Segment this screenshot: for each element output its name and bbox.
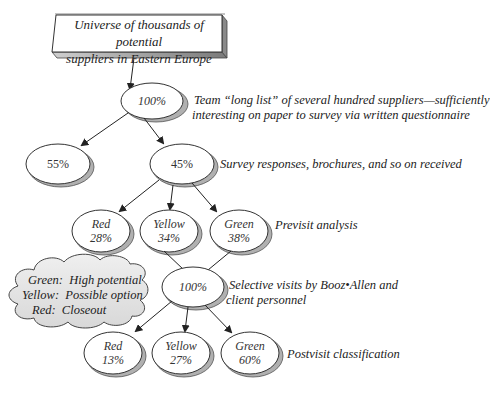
previsit-red-name: Red: [72, 217, 130, 231]
arrow-to-previsit-red: [120, 180, 159, 211]
legend-desc-red: Closeout: [62, 303, 106, 317]
postvisit-yellow-name: Yellow: [152, 339, 210, 353]
previsit-yellow-value: 34%: [140, 231, 198, 245]
postvisit-red-value: 13%: [84, 353, 142, 367]
previsit-green-value: 38%: [210, 231, 268, 245]
previsit-yellow: Yellow 34%: [140, 217, 198, 245]
postvisit-red: Red 13%: [84, 339, 142, 367]
responded-label: Survey responses, brochures, and so on r…: [220, 157, 462, 172]
previsit-red: Red 28%: [72, 217, 130, 245]
long-list-value: 100%: [121, 94, 183, 108]
visits-label-line1: Selective visits by Booz•Allen and: [229, 278, 398, 293]
postvisit-label: Postvisit classification: [287, 347, 400, 362]
responded-value: 45%: [150, 157, 214, 171]
postvisit-green-name: Green: [221, 339, 279, 353]
source-box: Universe of thousands of potential suppl…: [54, 16, 224, 67]
postvisit-yellow-value: 27%: [152, 353, 210, 367]
source-box-line2: suppliers in Eastern Europe: [54, 50, 224, 67]
long-list-label-line2: interesting on paper to survey via writt…: [192, 108, 470, 123]
line-green-to-visits: [208, 251, 231, 270]
legend-item-red: Red: Closeout: [22, 303, 143, 318]
legend-key-green: Green:: [28, 273, 63, 287]
arrow-to-postvisit-green: [205, 305, 231, 332]
postvisit-green: Green 60%: [221, 339, 279, 367]
postvisit-yellow: Yellow 27%: [152, 339, 210, 367]
arrow-to-postvisit-yellow: [185, 307, 188, 331]
long-list-label-line1: Team “long list” of several hundred supp…: [194, 93, 490, 108]
legend-key-yellow: Yellow:: [22, 288, 59, 302]
previsit-label: Previsit analysis: [275, 218, 358, 233]
dropped-value: 55%: [26, 157, 90, 171]
source-box-line1: Universe of thousands of potential: [54, 16, 224, 50]
postvisit-red-name: Red: [84, 339, 142, 353]
visits-value: 100%: [162, 280, 224, 294]
previsit-green-name: Green: [210, 217, 268, 231]
postvisit-green-value: 60%: [221, 353, 279, 367]
previsit-yellow-name: Yellow: [140, 217, 198, 231]
arrow-to-previsit-green: [192, 183, 216, 211]
legend-key-red: Red:: [32, 303, 56, 317]
legend-item-green: Green: High potential: [22, 273, 143, 288]
previsit-green: Green 38%: [210, 217, 268, 245]
legend-cloud: Green: High potential Yellow: Possible o…: [22, 273, 143, 318]
arrow-to-previsit-yellow: [170, 185, 173, 209]
visits-label-line2: client personnel: [226, 293, 306, 308]
previsit-red-value: 28%: [72, 231, 130, 245]
legend-item-yellow: Yellow: Possible option: [22, 288, 143, 303]
legend-desc-green: High potential: [69, 273, 142, 287]
legend-desc-yellow: Possible option: [65, 288, 142, 302]
arrow-to-dropped: [82, 113, 128, 145]
